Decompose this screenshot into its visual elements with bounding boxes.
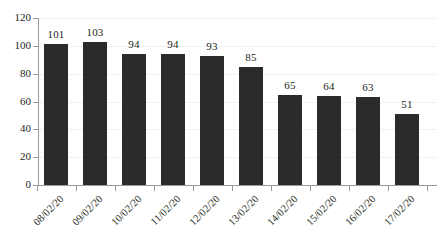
bar-value-label: 101 [36, 29, 76, 40]
bar-value-label: 103 [75, 27, 115, 38]
bar-value-label: 85 [231, 52, 271, 63]
y-axis-tick-label: 40 [0, 123, 31, 134]
bar [395, 114, 419, 185]
bar-value-label: 93 [192, 41, 232, 52]
y-axis-tick-label: 0 [0, 179, 31, 190]
y-axis-tick [33, 157, 38, 158]
x-axis-tick [427, 186, 428, 191]
x-axis-tick [76, 186, 77, 191]
bar [83, 42, 107, 185]
y-axis-tick [33, 74, 38, 75]
bar-value-label: 63 [348, 82, 388, 93]
gridline [38, 18, 437, 19]
y-axis-tick [33, 18, 38, 19]
bar [278, 95, 302, 185]
y-axis-tick-label: 100 [0, 40, 31, 51]
x-axis-tick [349, 186, 350, 191]
bar [317, 96, 341, 185]
bar-value-label: 64 [309, 81, 349, 92]
x-axis-tick [193, 186, 194, 191]
bar-value-label: 51 [387, 99, 427, 110]
bar [239, 67, 263, 185]
y-axis-tick-label: 20 [0, 151, 31, 162]
y-axis-tick [33, 46, 38, 47]
plot-area [38, 18, 437, 185]
x-axis-tick [271, 186, 272, 191]
x-axis-tick [115, 186, 116, 191]
bar [44, 44, 68, 185]
y-axis-tick [33, 102, 38, 103]
bar-value-label: 65 [270, 80, 310, 91]
bar [356, 97, 380, 185]
x-axis-line [38, 185, 437, 186]
bar-value-label: 94 [114, 39, 154, 50]
y-axis-tick [33, 129, 38, 130]
bar-value-label: 94 [153, 39, 193, 50]
y-axis-tick-label: 60 [0, 96, 31, 107]
x-axis-tick [154, 186, 155, 191]
bar [161, 54, 185, 185]
bar [122, 54, 146, 185]
y-axis-tick-label: 120 [0, 12, 31, 23]
x-axis-tick [388, 186, 389, 191]
bar [200, 56, 224, 185]
x-axis-tick [310, 186, 311, 191]
bar-chart: 020406080100120 1011039494938565646351 0… [0, 0, 447, 238]
x-axis-tick [232, 186, 233, 191]
x-axis-tick [37, 186, 38, 191]
y-axis-line [38, 18, 39, 185]
y-axis-tick-label: 80 [0, 68, 31, 79]
